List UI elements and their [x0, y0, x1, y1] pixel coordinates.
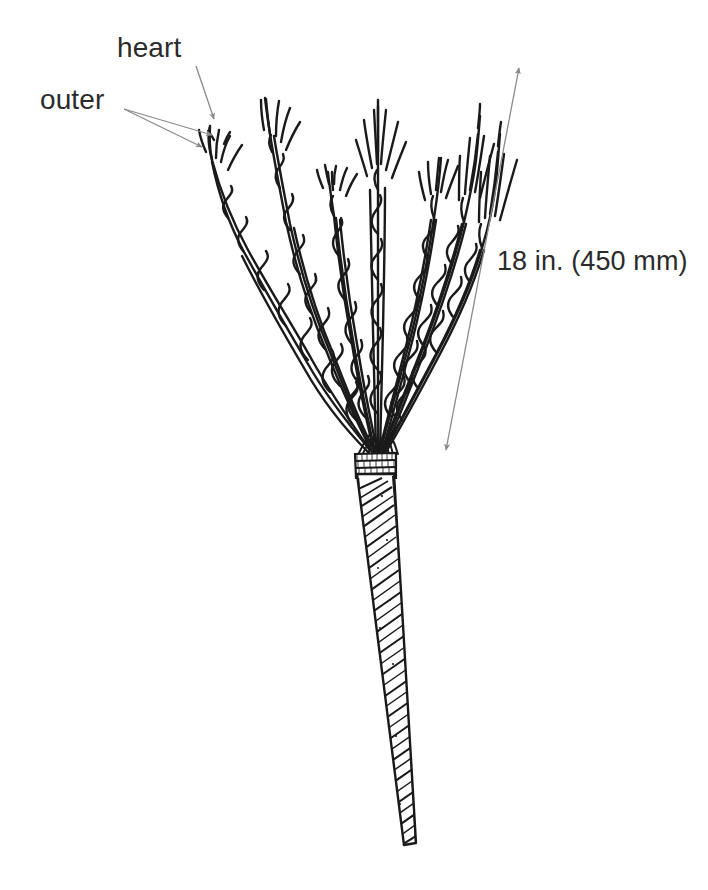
besom-broom-illustration: [0, 0, 708, 890]
label-dimension: 18 in. (450 mm): [497, 246, 688, 277]
label-outer: outer: [40, 84, 104, 116]
label-heart: heart: [117, 32, 181, 64]
figure-canvas: heart outer 18 in. (450 mm): [0, 0, 708, 890]
background: [0, 0, 708, 890]
